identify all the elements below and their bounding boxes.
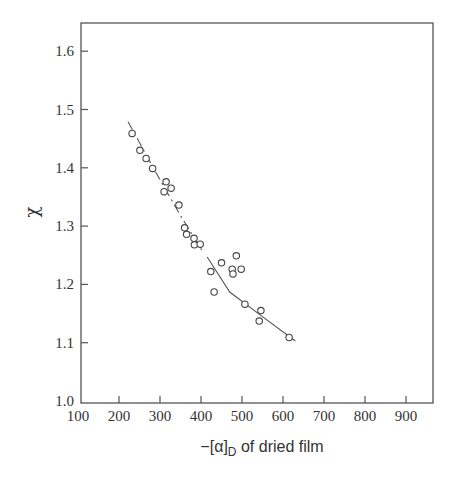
x-axis-ticks: 100200300400500600700800900	[67, 396, 418, 424]
plot-frame	[81, 23, 433, 403]
x-tick-label: 300	[149, 408, 172, 424]
data-point	[211, 289, 217, 295]
fit-lines	[128, 122, 295, 341]
data-point	[233, 253, 239, 259]
y-tick-label: 1.2	[55, 276, 74, 292]
fit-segment-2	[207, 257, 295, 341]
x-tick-label: 800	[354, 408, 377, 424]
fit-segment-1	[128, 122, 203, 253]
data-point	[168, 185, 174, 191]
y-tick-label: 1.6	[55, 43, 74, 59]
data-point	[242, 301, 248, 307]
x-tick-label: 900	[395, 408, 418, 424]
data-point	[137, 147, 143, 153]
data-point	[161, 189, 167, 195]
data-point	[143, 155, 149, 161]
data-point	[149, 165, 155, 171]
data-points	[129, 130, 292, 340]
data-point	[256, 318, 262, 324]
x-tick-label: 500	[231, 408, 254, 424]
data-point	[238, 266, 244, 272]
data-point	[191, 235, 197, 241]
y-axis-label: χ	[21, 206, 42, 217]
x-axis-label: −[α]D of dried film	[200, 438, 323, 459]
data-point	[129, 130, 135, 136]
data-point	[286, 334, 292, 340]
data-point	[181, 225, 187, 231]
y-tick-label: 1.0	[55, 393, 74, 409]
x-tick-label: 200	[108, 408, 131, 424]
data-point	[230, 271, 236, 277]
x-tick-label: 600	[272, 408, 295, 424]
data-point	[208, 268, 214, 274]
data-point	[176, 202, 182, 208]
data-point	[218, 260, 224, 266]
y-axis-ticks: 1.01.11.21.31.41.51.6	[55, 43, 88, 409]
data-point	[258, 307, 264, 313]
y-tick-label: 1.3	[55, 218, 74, 234]
x-tick-label: 400	[190, 408, 213, 424]
y-tick-label: 1.4	[55, 160, 74, 176]
scatter-chart: 100200300400500600700800900 1.01.11.21.3…	[0, 0, 458, 484]
x-tick-label: 100	[67, 408, 90, 424]
x-tick-label: 700	[313, 408, 336, 424]
data-point	[197, 241, 203, 247]
y-tick-label: 1.1	[55, 335, 74, 351]
y-tick-label: 1.5	[55, 102, 74, 118]
data-point	[183, 231, 189, 237]
data-point	[163, 179, 169, 185]
